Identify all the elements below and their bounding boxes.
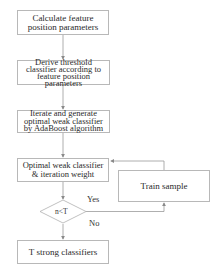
node-derive-threshold: Derive threshold classifier according to…	[17, 60, 110, 85]
node-text: parameters	[26, 80, 101, 87]
node-text: T strong classifiers	[29, 248, 97, 257]
decision-text: n<T	[55, 207, 68, 216]
node-t-strong-classifiers: T strong classifiers	[17, 240, 109, 264]
connector-lines	[0, 0, 224, 280]
edge-label-yes: Yes	[87, 194, 99, 204]
edge-label-no: No	[89, 218, 99, 228]
node-text: & iteration weight	[23, 170, 104, 179]
node-iterate-adaboost: Iterate and generate optimal weak classi…	[17, 110, 110, 133]
node-optimal-weak-classifier: Optimal weak classifier & iteration weig…	[17, 158, 109, 182]
node-calculate-feature: Calculate feature position parameters	[17, 10, 109, 35]
node-text: Train sample	[141, 182, 188, 191]
node-text: position parameters	[28, 23, 99, 32]
node-train-sample: Train sample	[118, 170, 210, 202]
node-text: by AdaBoost algorithm	[24, 125, 103, 133]
